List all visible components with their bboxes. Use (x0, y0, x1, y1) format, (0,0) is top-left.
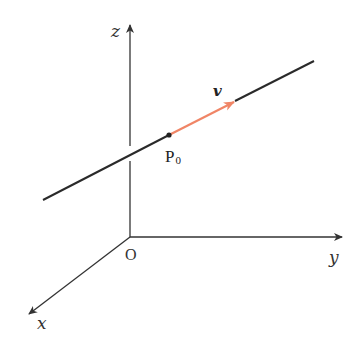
origin-label: O (125, 246, 137, 263)
x-axis-label: x (37, 313, 47, 333)
z-axis-label: z (110, 21, 121, 41)
point-p0-label-subscript: 0 (175, 154, 181, 166)
diagram-canvas: z y x O P0 v (0, 0, 361, 362)
point-p0-label: P0 (165, 147, 181, 166)
point-p0-label-main: P (165, 147, 174, 166)
y-axis-label: y (328, 247, 339, 267)
x-axis (29, 237, 130, 314)
vector-v-label: v (213, 82, 222, 100)
direction-vector (170, 102, 234, 135)
point-p0-dot (166, 132, 171, 137)
